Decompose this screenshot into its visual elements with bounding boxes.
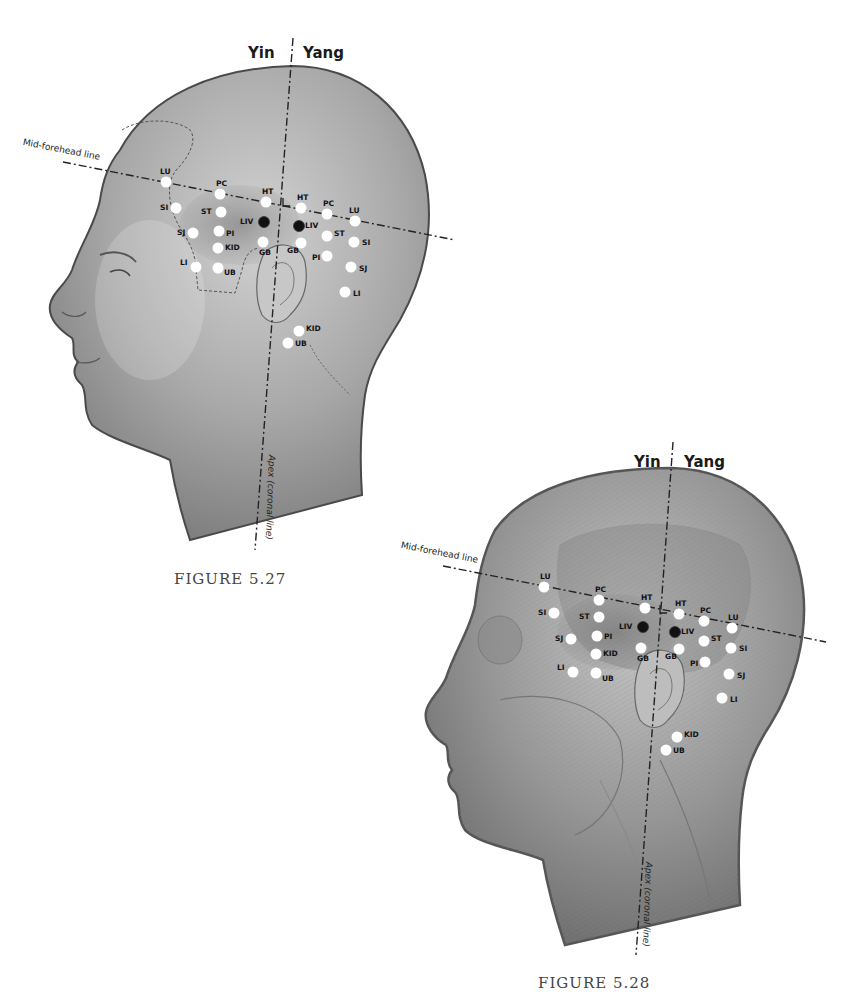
acupoint-gb-yang-label: GB	[665, 653, 677, 661]
acupoint-si-yang-label: SI	[739, 645, 747, 653]
acupoint-gb-yin-label: GB	[637, 655, 649, 663]
acupoint-liv-yin-marker	[638, 622, 649, 633]
acupoint-pi-yang-marker	[700, 657, 711, 668]
head-1	[50, 38, 455, 550]
acupoint-st-yang-marker	[699, 636, 710, 647]
figure-caption-2: FIGURE 5.28	[538, 974, 650, 992]
acupoint-pc-yang-marker	[322, 209, 333, 220]
acupoint-li-yang-marker	[340, 287, 351, 298]
acupoint-li-yin-marker	[568, 667, 579, 678]
acupoint-li-yin-label: LI	[180, 259, 188, 267]
acupoint-pc-yin-marker	[594, 595, 605, 606]
acupoint-pc-yang-label: PC	[323, 200, 334, 208]
acupoint-si-yin-label: SI	[160, 204, 168, 212]
acupoint-sj-yang-marker	[346, 262, 357, 273]
acupoint-sj-yang-label: SJ	[359, 265, 367, 273]
acupoint-st-yang-label: ST	[334, 230, 345, 238]
acupoint-si-yang-marker	[349, 237, 360, 248]
acupoint-st-yin-marker	[216, 207, 227, 218]
acupoint-pc-yin-label: PC	[595, 586, 606, 594]
figure-caption-1: FIGURE 5.27	[174, 570, 286, 588]
acupoint-pi-yin-marker	[592, 631, 603, 642]
acupoint-ub-yang-marker	[283, 338, 294, 349]
acupoint-ht-yin-label: HT	[262, 188, 273, 196]
acupoint-lu-yang-marker	[727, 623, 738, 634]
acupoint-gb-yin-marker	[258, 237, 269, 248]
acupoint-gb-yin-marker	[636, 643, 647, 654]
yang-label-2: Yang	[684, 453, 725, 471]
acupoint-gb-yang-label: GB	[287, 247, 299, 255]
acupoint-pc-yang-label: PC	[700, 607, 711, 615]
acupoint-sj-yin-label: SJ	[555, 635, 563, 643]
acupoint-liv-yin-label: LIV	[240, 218, 253, 226]
acupoint-ub-yang-marker	[661, 745, 672, 756]
acupoint-si-yang-marker	[726, 643, 737, 654]
acupoint-pi-yang-label: PI	[690, 660, 698, 668]
acupoint-li-yang-label: LI	[353, 290, 361, 298]
acupoint-kid-yin-label: KID	[225, 244, 240, 252]
acupoint-ht-yang-label: HT	[297, 194, 308, 202]
acupoint-ht-yang-marker	[296, 203, 307, 214]
acupoint-st-yin-label: ST	[201, 208, 212, 216]
acupoint-ub-yin-marker	[591, 668, 602, 679]
acupoint-st-yin-marker	[594, 612, 605, 623]
acupoint-liv-yang-label: LIV	[681, 628, 694, 636]
acupoint-si-yin-marker	[549, 608, 560, 619]
acupoint-li-yang-marker	[717, 693, 728, 704]
acupoint-pi-yin-label: PI	[226, 230, 234, 238]
acupoint-ub-yin-label: UB	[224, 269, 236, 277]
acupoint-st-yang-label: ST	[711, 635, 722, 643]
acupoint-pc-yin-label: PC	[216, 180, 227, 188]
acupoint-li-yang-label: LI	[730, 696, 738, 704]
acupoint-gb-yin-label: GB	[259, 249, 271, 257]
acupoint-sj-yang-label: SJ	[737, 672, 745, 680]
acupoint-lu-yin-label: LU	[540, 573, 551, 581]
acupoint-ub-yin-marker	[213, 263, 224, 274]
acupoint-kid-yin-marker	[591, 649, 602, 660]
acupoint-lu-yang-marker	[350, 216, 361, 227]
acupoint-liv-yang-marker	[294, 221, 305, 232]
acupoint-kid-yang-marker	[672, 732, 683, 743]
acupoint-lu-yin-marker	[161, 177, 172, 188]
acupoint-ht-yang-label: HT	[675, 600, 686, 608]
acupoint-liv-yang-label: LIV	[305, 222, 318, 230]
acupoint-ht-yang-marker	[674, 609, 685, 620]
acupoint-pc-yin-marker	[215, 189, 226, 200]
acupoint-ht-yin-marker	[261, 197, 272, 208]
acupoint-pi-yang-label: PI	[312, 254, 320, 262]
acupoint-pc-yang-marker	[699, 616, 710, 627]
acupoint-lu-yang-label: LU	[349, 207, 360, 215]
acupoint-li-yin-label: LI	[557, 664, 565, 672]
acupoint-ht-yin-marker	[640, 603, 651, 614]
acupoint-lu-yin-label: LU	[160, 168, 171, 176]
yin-label-2: Yin	[634, 453, 661, 471]
acupoint-kid-yang-label: KID	[306, 325, 321, 333]
yang-label-1: Yang	[303, 44, 344, 62]
acupoint-sj-yang-marker	[724, 669, 735, 680]
acupoint-pi-yang-marker	[322, 251, 333, 262]
acupoint-kid-yin-marker	[213, 243, 224, 254]
acupoint-sj-yin-marker	[188, 228, 199, 239]
acupoint-lu-yin-marker	[539, 582, 550, 593]
acupoint-ub-yin-label: UB	[602, 675, 614, 683]
acupoint-st-yin-label: ST	[579, 613, 590, 621]
acupoint-lu-yang-label: LU	[728, 614, 739, 622]
acupoint-sj-yin-label: SJ	[177, 229, 185, 237]
acupoint-pi-yin-marker	[214, 226, 225, 237]
yin-label-1: Yin	[248, 44, 275, 62]
acupoint-liv-yin-label: LIV	[619, 623, 632, 631]
acupoint-kid-yang-label: KID	[684, 731, 699, 739]
acupoint-ub-yang-label: UB	[673, 747, 685, 755]
acupoint-pi-yin-label: PI	[604, 633, 612, 641]
acupoint-liv-yang-marker	[670, 627, 681, 638]
acupoint-si-yin-label: SI	[538, 609, 546, 617]
acupoint-liv-yin-marker	[259, 217, 270, 228]
head-2	[426, 442, 826, 955]
acupoint-si-yang-label: SI	[362, 239, 370, 247]
acupoint-kid-yang-marker	[294, 326, 305, 337]
acupoint-sj-yin-marker	[566, 634, 577, 645]
acupoint-li-yin-marker	[191, 262, 202, 273]
acupoint-ub-yang-label: UB	[295, 340, 307, 348]
